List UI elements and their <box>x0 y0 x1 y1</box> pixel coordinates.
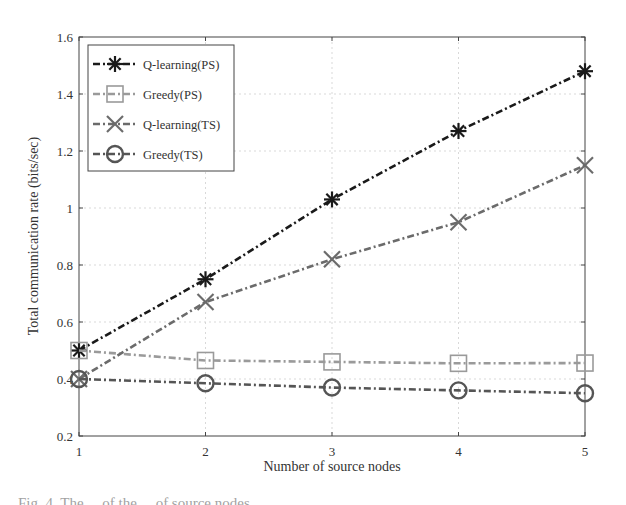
x-tick-label: 4 <box>455 444 462 459</box>
x-tick-label: 5 <box>582 444 589 459</box>
x-tick-label: 1 <box>76 444 83 459</box>
y-axis-label: Total communication rate (bits/sec) <box>26 136 42 335</box>
legend-label: Q-learning(PS) <box>143 58 219 72</box>
legend-label: Greedy(PS) <box>143 88 202 102</box>
y-tick-label: 0.8 <box>57 258 73 273</box>
legend-entry: Greedy(TS) <box>93 146 203 162</box>
caption-fragment: Fig. 4. The ... of the ... of source nod… <box>0 496 626 505</box>
y-tick-label: 1.2 <box>57 144 73 159</box>
y-tick-label: 0.2 <box>57 429 73 444</box>
y-tick-label: 1.4 <box>57 87 74 102</box>
legend: Q-learning(PS)Greedy(PS)Q-learning(TS)Gr… <box>88 45 234 171</box>
line-chart: 0.20.40.60.811.21.41.6 12345 Number of s… <box>0 0 626 505</box>
y-tick-label: 1 <box>67 201 74 216</box>
y-tick-label: 1.6 <box>57 30 74 45</box>
y-tick-label: 0.6 <box>57 315 74 330</box>
figure-caption: Fig. 4. The ... of the ... of source nod… <box>0 496 626 505</box>
x-tick-label: 2 <box>202 444 209 459</box>
series-line <box>79 379 585 393</box>
legend-label: Greedy(TS) <box>143 148 203 162</box>
x-tick-label: 3 <box>329 444 336 459</box>
x-axis-label: Number of source nodes <box>263 459 400 474</box>
series-greedy-ts <box>71 371 593 401</box>
legend-label: Q-learning(TS) <box>143 118 220 132</box>
